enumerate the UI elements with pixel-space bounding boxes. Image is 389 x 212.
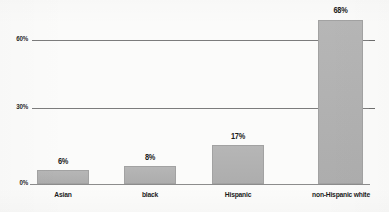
- category-label-hispanic: Hispanic: [213, 190, 263, 199]
- gridline-tick-60: [369, 40, 375, 41]
- value-label-black: 8%: [129, 152, 172, 162]
- bar-fill: [213, 146, 263, 183]
- bar-asian: [37, 170, 89, 184]
- bar-chart: 60% 30% 0% 6% 8% 17% 68% Asian black His…: [0, 0, 389, 212]
- ytick-label-0: 0%: [5, 179, 28, 186]
- axis-baseline: [30, 184, 370, 185]
- ytick-label-30: 30%: [5, 103, 28, 110]
- category-label-asian: Asian: [38, 190, 88, 199]
- category-label-black: black: [125, 190, 175, 199]
- bar-fill: [38, 171, 88, 183]
- category-label-non-hispanic-white: non-Hispanic white: [303, 190, 379, 199]
- value-label-asian: 6%: [42, 156, 85, 166]
- ytick-label-60: 60%: [5, 35, 28, 42]
- bar-black: [124, 166, 176, 184]
- bar-non-hispanic-white: [318, 20, 363, 184]
- value-label-non-hispanic-white: 68%: [322, 5, 359, 15]
- bar-fill: [319, 21, 362, 183]
- bar-fill: [125, 167, 175, 183]
- bar-hispanic: [212, 145, 264, 184]
- gridline-tick-30: [369, 108, 375, 109]
- plot-area: 60% 30% 0% 6% 8% 17% 68% Asian black His…: [0, 0, 389, 212]
- value-label-hispanic: 17%: [217, 131, 260, 141]
